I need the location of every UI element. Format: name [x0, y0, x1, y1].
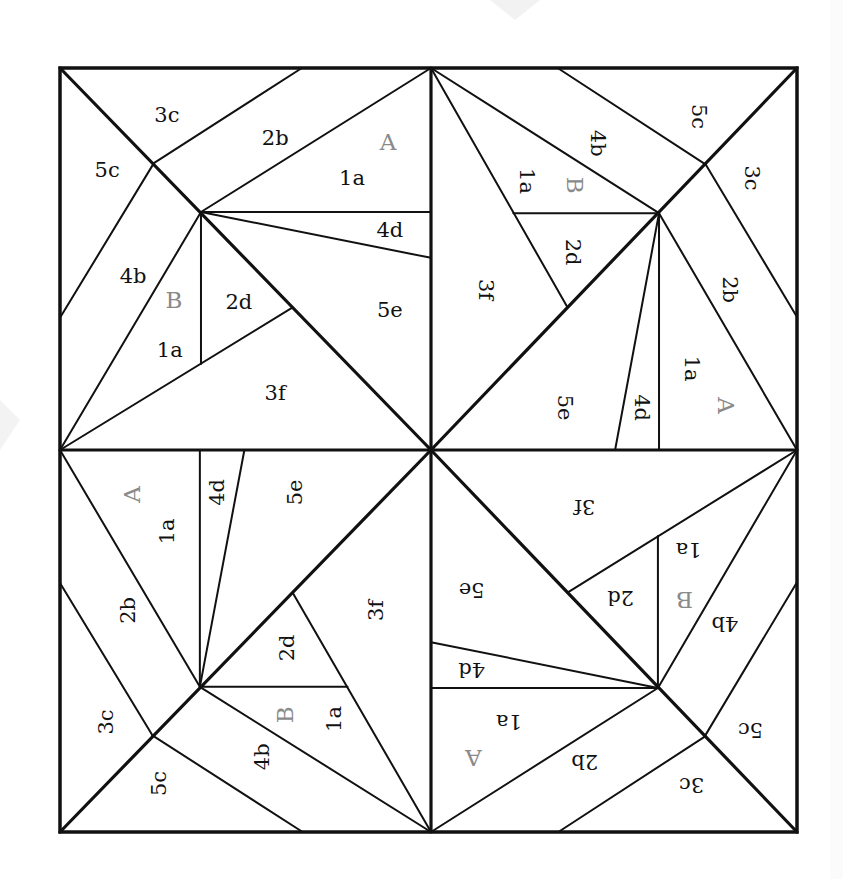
piece-label: 1a: [157, 338, 183, 362]
seam-4b-1a: [60, 212, 201, 450]
piece-label: 1a: [680, 356, 704, 382]
piece-label: 3f: [364, 598, 388, 621]
piece-label: 1a: [515, 168, 539, 194]
piece-label: 1a: [155, 518, 179, 544]
section-label: A: [119, 486, 145, 504]
piece-label: 5e: [459, 578, 485, 602]
seam-5c-4b: [558, 68, 706, 165]
piece-label: 3f: [265, 381, 288, 405]
seam-2b-1a: [60, 450, 200, 687]
labels-top-left: 3c2bA1a5c4d4bB2d5e1a3f: [95, 103, 404, 405]
seam-2b-1a: [659, 213, 797, 450]
piece-label: 4b: [586, 130, 610, 157]
piece-label: 2b: [116, 597, 140, 624]
seam-diagonal: [431, 450, 797, 832]
section-label: A: [713, 396, 739, 414]
piece-label: 4b: [711, 612, 738, 636]
labels-bottom-right: 3c2bA1a5c4d4bB2d5e1a3f: [458, 495, 763, 797]
piece-label: 4b: [120, 264, 147, 288]
piece-label: 2d: [561, 239, 585, 266]
piece-label: 2d: [607, 586, 634, 610]
seam-4b-1a: [658, 450, 797, 688]
piece-label: 2b: [571, 750, 598, 774]
piece-label: 3f: [572, 495, 595, 519]
piece-label: 1a: [676, 538, 702, 562]
seam-3f-edge: [431, 68, 567, 307]
piece-label: 4d: [630, 394, 654, 421]
labels-top-right: 3c2bA1a5c4d4bB2d5e1a3f: [474, 104, 764, 421]
piece-label: 2b: [262, 126, 289, 150]
seam-3f-edge: [293, 593, 431, 832]
seam-2b-1a: [431, 688, 658, 832]
piece-label: 3c: [94, 709, 118, 734]
section-label: A: [465, 745, 483, 771]
quadrant-bottom-right: [431, 450, 797, 832]
quilt-block-diagram: 3c2bA1a5c4d4bB2d5e1a3f3c2bA1a5c4d4bB2d5e…: [0, 0, 843, 879]
piece-label: 1a: [322, 706, 346, 732]
piece-label: 4b: [250, 743, 274, 770]
piece-label: 5c: [738, 718, 763, 742]
piece-label: 1a: [339, 166, 365, 190]
seam-diagonal: [431, 68, 797, 450]
piece-label: 5c: [147, 771, 171, 796]
seam-4b-1a: [431, 68, 659, 213]
piece-label: 3c: [154, 103, 179, 127]
piece-label: 3f: [474, 279, 498, 302]
seam-diagonal: [60, 450, 431, 832]
piece-label: 3c: [740, 165, 764, 190]
seam-3f-edge: [60, 308, 292, 450]
seam-diagonal: [60, 68, 431, 450]
piece-label: 5e: [553, 395, 577, 421]
seam-3f-edge: [568, 450, 797, 592]
piece-label: 4d: [458, 658, 485, 682]
piece-label: 4d: [205, 479, 229, 506]
piece-label: 5c: [95, 158, 120, 182]
piece-label: 4d: [376, 218, 403, 242]
section-label: B: [272, 706, 298, 723]
piece-label: 5e: [377, 298, 403, 322]
piece-label: 2b: [718, 276, 742, 303]
section-label: B: [562, 177, 588, 194]
seam-5c-4b: [704, 582, 797, 737]
seam-4b-1a: [200, 687, 431, 832]
piece-label: 2d: [275, 634, 299, 661]
section-label: B: [676, 587, 693, 613]
section-label: A: [379, 129, 397, 155]
piece-label: 3c: [679, 773, 704, 797]
piece-label: 5c: [687, 104, 711, 129]
piece-label: 2d: [225, 290, 252, 314]
quadrant-top-left: [60, 68, 431, 450]
seam-2b-1a: [201, 68, 431, 212]
seam-5c-4b: [60, 163, 154, 318]
labels-bottom-left: 3c2bA1a5c4d4bB2d5e1a3f: [94, 479, 388, 796]
seam-5c-4b: [152, 735, 302, 832]
section-label: B: [165, 287, 182, 313]
piece-label: 1a: [496, 710, 522, 734]
quadrant-bottom-left: [60, 450, 431, 832]
piece-label: 5e: [283, 480, 307, 506]
quadrant-top-right: [431, 68, 797, 450]
